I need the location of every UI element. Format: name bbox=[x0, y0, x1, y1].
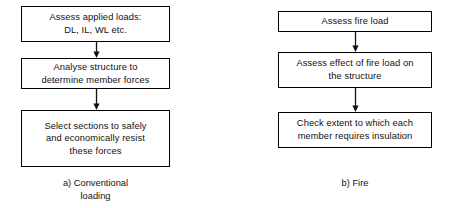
flow-box-label: Select sections to safely and economical… bbox=[44, 120, 146, 158]
down-arrow-icon bbox=[348, 32, 362, 52]
flow-box-label: Analyse structure to determine member fo… bbox=[41, 61, 149, 86]
flow-box-label: Assess effect of fire load on the struct… bbox=[297, 57, 414, 82]
flow-box-label: Check extent to which each member requir… bbox=[297, 117, 413, 142]
flow-column-fire: Assess fire load Assess effect of fire l… bbox=[229, 0, 458, 208]
down-arrow-icon bbox=[348, 88, 362, 112]
down-arrow-icon bbox=[89, 42, 103, 58]
flow-box-label: Assess fire load bbox=[321, 15, 388, 28]
column-caption-fire: b) Fire bbox=[278, 177, 432, 190]
flow-box-assess-effect-of-fire-load: Assess effect of fire load on the struct… bbox=[278, 52, 432, 88]
flow-box-check-insulation-extent: Check extent to which each member requir… bbox=[278, 112, 432, 148]
flow-box-assess-fire-load: Assess fire load bbox=[278, 11, 432, 32]
flow-box-assess-applied-loads: Assess applied loads: DL, IL, WL etc. bbox=[21, 6, 170, 42]
flow-box-analyse-structure: Analyse structure to determine member fo… bbox=[21, 58, 170, 89]
flow-column-conventional-loading: Assess applied loads: DL, IL, WL etc. An… bbox=[0, 0, 229, 208]
flowchart-figure: Assess applied loads: DL, IL, WL etc. An… bbox=[0, 0, 458, 208]
down-arrow-icon bbox=[89, 89, 103, 110]
column-caption-conventional-loading: a) Conventional loading bbox=[21, 177, 170, 203]
flow-box-label: Assess applied loads: DL, IL, WL etc. bbox=[49, 11, 141, 36]
flow-box-select-sections: Select sections to safely and economical… bbox=[21, 110, 170, 167]
